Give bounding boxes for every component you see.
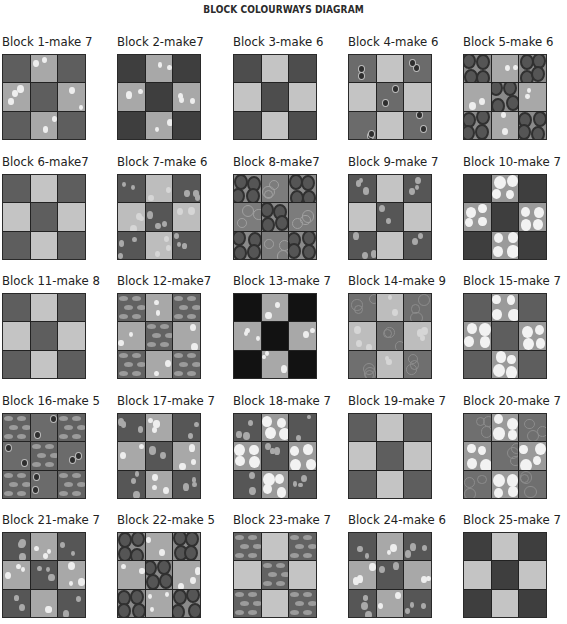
nine-patch-block [233,174,317,260]
fabric-spot [133,491,140,498]
fabric-blob [494,414,503,424]
fabric-spot [155,251,160,257]
nine-patch-block [117,413,201,499]
fabric-oval [531,126,545,139]
patch-corner [173,294,200,321]
fabric-seed [147,342,156,347]
patch-edge [146,590,173,617]
fabric-oval [464,55,476,69]
fabric-blob [467,444,476,453]
fabric-spot [393,562,399,570]
patch-center [262,322,289,349]
patch-edge [492,414,519,441]
block-label: Block 12-make7 [117,273,211,288]
fabric-spot [179,463,185,470]
fabric-dot [383,100,388,106]
fabric-spot [405,608,410,614]
fabric-seed [303,553,312,558]
fabric-spot [245,328,249,333]
fabric-seed [263,563,272,568]
fabric-bubble [537,426,546,437]
patch-center [377,442,404,469]
fabric-bubble [253,209,260,220]
fabric-blob [465,218,474,227]
patch-edge [404,442,431,469]
fabric-spot [479,98,485,105]
fabric-spot [417,329,423,337]
fabric-spot [190,98,195,104]
fabric-spot [354,326,361,334]
fabric-seed [290,535,299,540]
block-label: Block 11-make 8 [2,273,100,288]
fabric-spot [131,185,135,190]
fabric-dot [421,126,426,132]
fabric-blob [234,444,245,456]
block-label: Block 14-make 9 [348,273,446,288]
fabric-bubble [464,488,476,498]
fabric-seed [160,342,169,347]
fabric-spot [386,218,391,224]
patch-corner [464,112,491,139]
fabric-blob [494,176,506,189]
patch-corner [464,351,491,378]
patch-edge [262,533,289,560]
fabric-seed [50,453,58,458]
fabric-seed [59,473,68,478]
patch-center [492,83,519,110]
fabric-spot [130,225,137,231]
fabric-oval [234,245,247,259]
fabric-spot [121,564,125,569]
fabric-seed [147,324,156,329]
fabric-spot [379,205,385,212]
patch-corner [58,294,85,321]
fabric-spot [163,487,169,494]
fabric-oval [131,533,145,547]
fabric-spot [158,62,163,68]
fabric-blob [480,459,490,470]
patch-center [377,203,404,230]
fabric-blob [492,189,501,199]
fabric-spot [135,471,140,476]
fabric-spot [265,443,271,450]
patch-corner [349,232,376,259]
patch-corner [118,232,145,259]
patch-corner [289,112,316,139]
fabric-spot [191,459,196,465]
patch-corner [173,55,200,82]
patch-corner [234,55,261,82]
fabric-spot [122,182,126,187]
nine-patch-block [233,413,317,499]
fabric-bubble [411,304,421,314]
patch-edge [58,561,85,588]
fabric-oval [186,590,200,604]
fabric-spot [148,418,152,423]
patch-edge [3,322,30,349]
patch-edge [464,322,491,349]
fabric-blob [533,219,543,230]
fabric-oval [146,574,160,588]
patch-corner [3,471,30,498]
patch-corner [58,112,85,139]
patch-corner [519,232,546,259]
fabric-blob [249,456,260,468]
patch-edge [58,203,85,230]
fabric-oval [289,243,301,259]
patch-edge [377,351,404,378]
fabric-spot [418,233,423,239]
fabric-oval [262,203,274,217]
fabric-spot [281,365,287,372]
patch-edge [146,294,173,321]
patch-edge [262,112,289,139]
patch-center [377,322,404,349]
patch-edge [234,442,261,469]
fabric-blob [479,323,491,336]
fabric-blob [303,444,313,455]
fabric-seed [268,572,277,577]
patch-edge [146,175,173,202]
patch-edge [3,442,30,469]
fabric-seed [263,581,272,586]
fabric-seed [124,305,133,310]
patch-edge [492,471,519,498]
block-label: Block 16-make 5 [2,393,100,408]
fabric-spot [422,545,427,551]
